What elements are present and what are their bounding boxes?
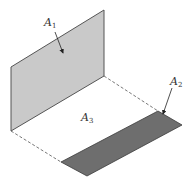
arrow-a2-icon: [163, 88, 172, 114]
label-a1: A1: [43, 16, 56, 30]
surface-a2-strip: [61, 111, 182, 176]
label-a2: A2: [169, 75, 182, 89]
dashed-edge-back: [104, 76, 158, 111]
label-a3: A3: [80, 111, 93, 125]
surfaces-diagram: A1 A2 A3: [0, 0, 192, 188]
dashed-edge-front: [11, 131, 61, 162]
surface-a1-panel: [11, 10, 104, 131]
